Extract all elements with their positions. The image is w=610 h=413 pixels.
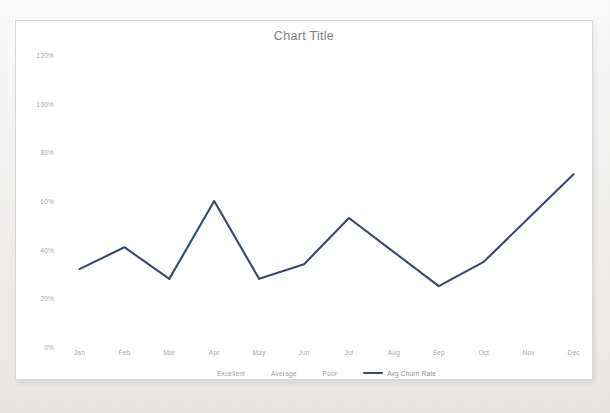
y-axis: 0%20%40%60%80%100%120% [18,55,54,347]
x-axis-tick-label: Jul [327,349,372,363]
legend-line-swatch-icon [363,372,383,374]
x-axis-tick-label: Apr [192,349,237,363]
series-line-avg-churn-rate [79,174,573,286]
x-axis-tick-label: Sep [416,349,461,363]
chart-page: Chart Title 0%20%40%60%80%100%120% JanFe… [0,0,610,413]
plot-area [57,55,596,347]
x-axis: JanFebMarAprMayJunJulAugSepOctNovDec [57,349,596,363]
legend-item[interactable]: Excellent [217,370,245,377]
x-axis-tick-label: May [237,349,282,363]
chart-title: Chart Title [16,29,592,43]
x-axis-tick-label: Jan [57,349,102,363]
legend-item-label: Avg Churn Rate [387,370,436,377]
legend-item[interactable]: Avg Churn Rate [363,370,436,377]
legend-item-label: Excellent [217,370,245,377]
y-axis-tick-label: 40% [20,246,54,253]
legend-item-label: Poor [323,370,338,377]
y-axis-tick-label: 100% [20,100,54,107]
legend-item[interactable]: Poor [323,370,338,377]
x-axis-tick-label: Nov [506,349,551,363]
line-series-svg [57,55,596,347]
y-axis-tick-label: 60% [20,198,54,205]
x-axis-tick-label: Aug [371,349,416,363]
y-axis-tick-label: 20% [20,295,54,302]
x-axis-tick-label: Dec [551,349,596,363]
y-axis-tick-label: 0% [20,344,54,351]
x-axis-tick-label: Feb [102,349,147,363]
legend-item[interactable]: Average [271,370,297,377]
x-axis-tick-label: Oct [461,349,506,363]
y-axis-tick-label: 80% [20,149,54,156]
chart-legend: ExcellentAveragePoorAvg Churn Rate [57,366,596,380]
x-axis-tick-label: Mar [147,349,192,363]
legend-item-label: Average [271,370,297,377]
y-axis-tick-label: 120% [20,52,54,59]
x-axis-tick-label: Jun [282,349,327,363]
